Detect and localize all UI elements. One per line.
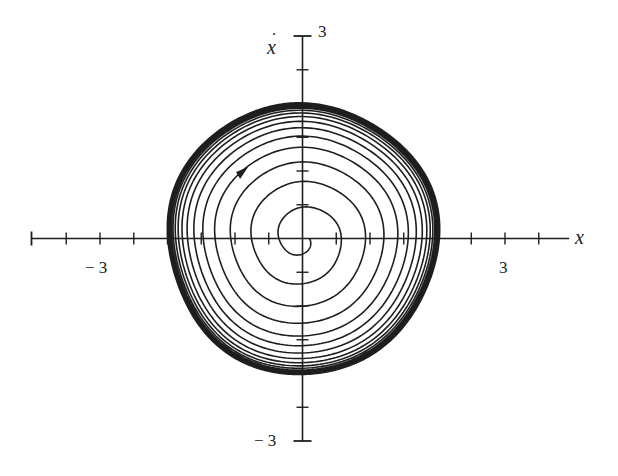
x-tick-label-negative: − 3	[85, 258, 107, 278]
y-axis-label-dot: ˙	[271, 30, 277, 51]
y-tick-label-top: 3	[318, 22, 327, 42]
x-axis-label: x	[575, 226, 584, 249]
phase-portrait-plot	[0, 0, 618, 476]
axes	[32, 36, 570, 441]
direction-arrow-icon	[236, 167, 248, 179]
y-tick-label-bottom: − 3	[254, 431, 276, 451]
x-tick-label-positive: 3	[499, 258, 508, 278]
